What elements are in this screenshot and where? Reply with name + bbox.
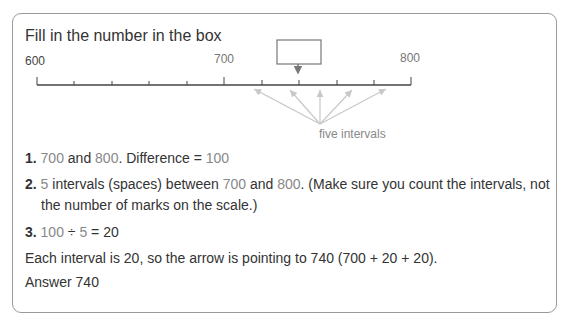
explanation: Each interval is 20, so the arrow is poi… xyxy=(25,248,437,269)
step-2: 2. 5 intervals (spaces) between 700 and … xyxy=(25,174,550,216)
step-1: 1. 700 and 800. Difference = 100 xyxy=(25,148,229,169)
answer: Answer 740 xyxy=(25,272,99,293)
step-3: 3. 100 ÷ 5 = 20 xyxy=(25,222,119,243)
answer-box xyxy=(277,40,321,64)
intervals-caption: five intervals xyxy=(319,127,386,141)
